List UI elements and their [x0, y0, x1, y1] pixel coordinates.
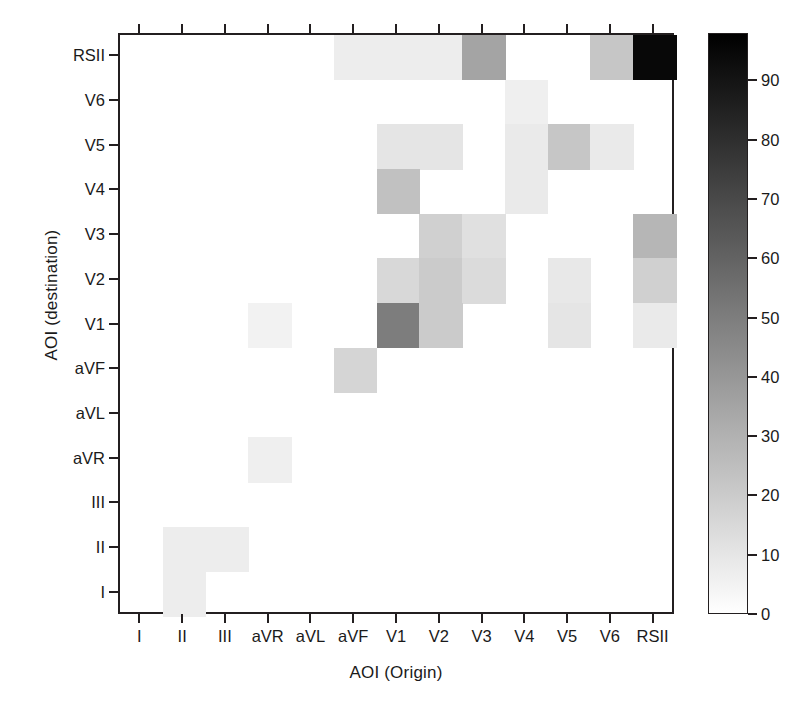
colorbar-gradient: [709, 34, 747, 613]
y-tick-mark: [109, 323, 118, 325]
y-tick-label-v4: V4: [13, 181, 105, 197]
heatmap-cell: [377, 258, 420, 303]
heatmap-cell: [419, 124, 462, 169]
colorbar-tick-mark: [748, 79, 757, 81]
x-tick-mark-top: [138, 24, 140, 33]
heatmap-cell: [419, 214, 462, 259]
x-tick-mark: [481, 614, 483, 623]
y-tick-mark: [109, 144, 118, 146]
x-tick-mark: [523, 614, 525, 623]
x-tick-mark: [566, 614, 568, 623]
y-tick-mark: [109, 457, 118, 459]
x-tick-mark: [181, 614, 183, 623]
y-tick-mark: [109, 501, 118, 503]
colorbar-gradient-frame: [708, 33, 748, 614]
colorbar-tick-label: 10: [761, 547, 779, 563]
colorbar-tick-label: 70: [761, 191, 779, 207]
y-tick-label-v5: V5: [13, 137, 105, 153]
heatmap-cell: [505, 80, 548, 125]
y-tick-label-iii: III: [13, 494, 105, 510]
x-tick-mark-top: [395, 24, 397, 33]
y-tick-label-ii: II: [13, 539, 105, 555]
y-tick-label-i: I: [13, 584, 105, 600]
y-tick-mark: [109, 54, 118, 56]
heatmap-cell: [419, 35, 462, 80]
heatmap-cell: [419, 303, 462, 348]
x-tick-label-rsii: RSII: [621, 627, 685, 645]
heatmap-cell: [377, 35, 420, 80]
y-tick-mark: [109, 188, 118, 190]
heatmap-cell: [334, 348, 377, 393]
y-tick-label-rsii: RSII: [13, 47, 105, 63]
heatmap-cell: [633, 35, 676, 80]
y-tick-mark: [109, 233, 118, 235]
x-tick-mark: [438, 614, 440, 623]
heatmap-cell: [377, 169, 420, 214]
x-tick-mark-top: [566, 24, 568, 33]
x-tick-mark-top: [181, 24, 183, 33]
colorbar-tick-label: 50: [761, 310, 779, 326]
colorbar: 0102030405060708090: [708, 33, 748, 614]
x-tick-mark-top: [523, 24, 525, 33]
heatmap-cell: [334, 35, 377, 80]
y-tick-label-avr: aVR: [13, 450, 105, 466]
colorbar-tick-label: 80: [761, 132, 779, 148]
heatmap-cell: [248, 437, 291, 482]
y-tick-mark: [109, 99, 118, 101]
colorbar-tick-label: 20: [761, 487, 779, 503]
y-tick-label-avl: aVL: [13, 405, 105, 421]
heatmap-cell: [419, 258, 462, 303]
x-tick-mark-top: [352, 24, 354, 33]
y-tick-mark: [109, 412, 118, 414]
heatmap-cell: [206, 527, 249, 572]
x-tick-mark: [395, 614, 397, 623]
colorbar-tick-label: 60: [761, 250, 779, 266]
colorbar-tick-mark: [748, 139, 757, 141]
x-tick-mark-top: [481, 24, 483, 33]
x-tick-mark: [309, 614, 311, 623]
colorbar-tick-mark: [748, 257, 757, 259]
heatmap-cell: [462, 258, 505, 303]
heatmap-cell: [590, 35, 633, 80]
heatmap-cell: [462, 214, 505, 259]
x-tick-mark: [609, 614, 611, 623]
x-tick-mark: [352, 614, 354, 623]
colorbar-tick-mark: [748, 317, 757, 319]
colorbar-tick-label: 30: [761, 428, 779, 444]
y-tick-label-v6: V6: [13, 92, 105, 108]
heatmap-cell: [377, 303, 420, 348]
y-tick-mark: [109, 591, 118, 593]
y-tick-mark: [109, 367, 118, 369]
heatmap-cell: [633, 303, 676, 348]
heatmap-cell: [548, 124, 591, 169]
y-tick-label-v1: V1: [13, 316, 105, 332]
colorbar-tick-mark: [748, 494, 757, 496]
x-tick-mark: [138, 614, 140, 623]
x-tick-mark-top: [224, 24, 226, 33]
heatmap-cell: [633, 214, 676, 259]
colorbar-tick-mark: [748, 613, 757, 615]
heatmap-cell: [248, 303, 291, 348]
colorbar-tick-mark: [748, 435, 757, 437]
x-tick-mark-top: [309, 24, 311, 33]
x-tick-mark-top: [652, 24, 654, 33]
heatmap-plot-area: [118, 33, 674, 614]
y-tick-label-v2: V2: [13, 271, 105, 287]
heatmap-cells: [120, 35, 672, 612]
heatmap-cell: [548, 258, 591, 303]
heatmap-cell: [462, 35, 505, 80]
colorbar-tick-label: 40: [761, 369, 779, 385]
x-tick-mark-top: [438, 24, 440, 33]
x-tick-mark: [652, 614, 654, 623]
heatmap-cell: [548, 303, 591, 348]
colorbar-tick-label: 0: [761, 606, 770, 622]
heatmap-figure: AOI (destination) AOI (Origin) RSIIV6V5V…: [0, 0, 800, 715]
heatmap-cell: [505, 124, 548, 169]
x-tick-mark: [224, 614, 226, 623]
heatmap-cell: [633, 258, 676, 303]
x-tick-mark-top: [267, 24, 269, 33]
x-tick-mark: [267, 614, 269, 623]
x-axis-title: AOI (Origin): [118, 663, 674, 683]
heatmap-cell: [163, 527, 206, 572]
heatmap-cell: [163, 571, 206, 616]
